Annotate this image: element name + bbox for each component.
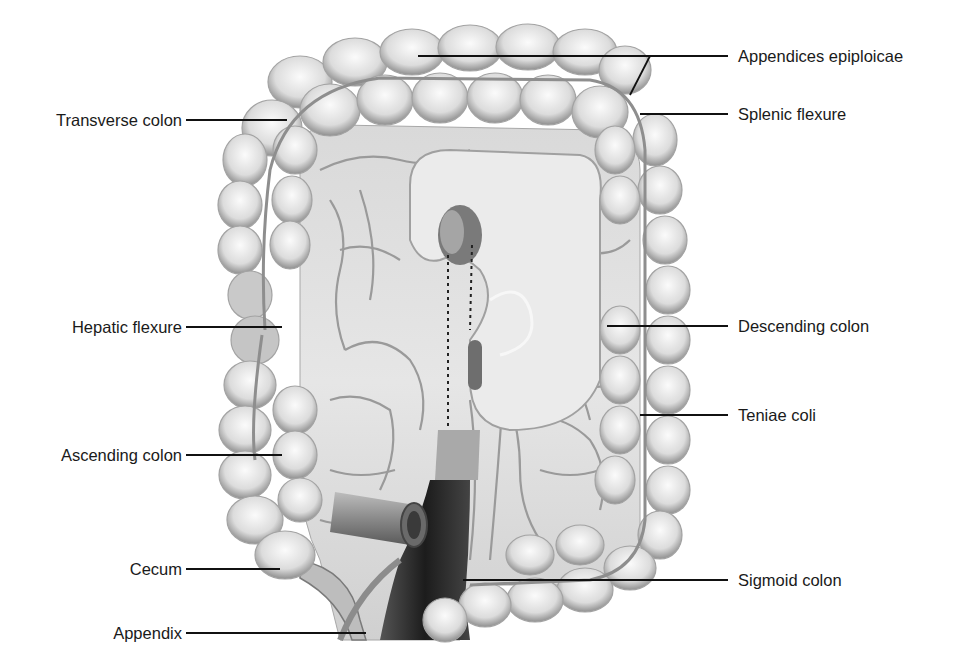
label-sigmoid-colon: Sigmoid colon bbox=[738, 570, 842, 590]
label-cecum: Cecum bbox=[130, 559, 182, 579]
label-transverse-colon: Transverse colon bbox=[56, 110, 182, 130]
label-appendices-epiploicae: Appendices epiploicae bbox=[738, 46, 903, 66]
label-ascending-colon: Ascending colon bbox=[61, 445, 182, 465]
colon-anatomy-diagram: Transverse colon Hepatic flexure Ascendi… bbox=[0, 0, 970, 670]
label-appendix: Appendix bbox=[113, 623, 182, 643]
label-teniae-coli: Teniae coli bbox=[738, 405, 816, 425]
label-hepatic-flexure: Hepatic flexure bbox=[72, 317, 182, 337]
label-splenic-flexure: Splenic flexure bbox=[738, 104, 846, 124]
label-descending-colon: Descending colon bbox=[738, 316, 869, 336]
